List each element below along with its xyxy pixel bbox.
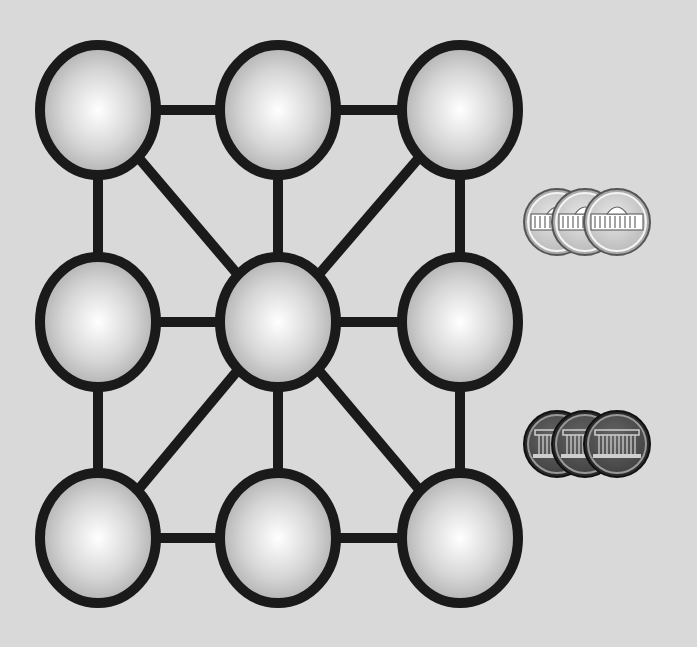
dark-tokens[interactable] (524, 411, 650, 477)
token-stacks (524, 189, 650, 477)
dark-token[interactable] (584, 411, 650, 477)
light-tokens[interactable] (524, 189, 650, 255)
board-node-n01[interactable] (220, 45, 336, 175)
board-node-n02[interactable] (402, 45, 518, 175)
board-node-n22[interactable] (402, 473, 518, 603)
board-node-n20[interactable] (40, 473, 156, 603)
light-token[interactable] (584, 189, 650, 255)
board-node-n00[interactable] (40, 45, 156, 175)
board-nodes (40, 45, 518, 603)
board-node-n21[interactable] (220, 473, 336, 603)
game-board (0, 0, 697, 647)
board-node-n12[interactable] (402, 257, 518, 387)
board-node-n10[interactable] (40, 257, 156, 387)
board-node-n11[interactable] (220, 257, 336, 387)
